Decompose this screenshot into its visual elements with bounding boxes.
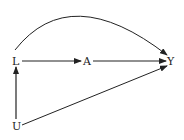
- node-L: L: [12, 55, 20, 68]
- node-A: A: [82, 55, 92, 68]
- edge-U-Y: [22, 66, 167, 125]
- node-Y: Y: [166, 55, 175, 68]
- causal-diagram: L A Y U: [0, 0, 184, 140]
- node-U: U: [12, 120, 21, 133]
- edge-L-Y-curved: [15, 16, 167, 55]
